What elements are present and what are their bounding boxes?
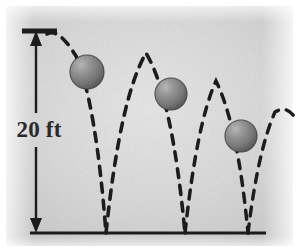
- bouncing-ball-figure: 20 ft: [0, 0, 299, 251]
- dimension-label: 20 ft: [8, 117, 70, 143]
- ball-2: [155, 78, 188, 111]
- ball-3: [225, 120, 258, 153]
- ball-1: [70, 55, 105, 90]
